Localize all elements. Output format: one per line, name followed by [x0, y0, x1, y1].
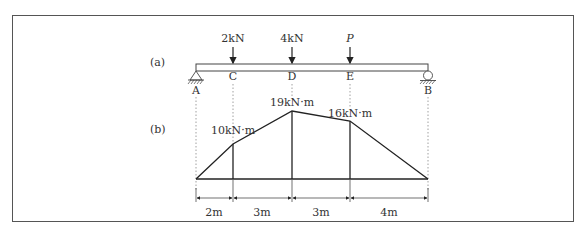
beam-diagram: (a) (b) 2kN 4kN P A C D — [0, 0, 588, 233]
svg-text:P: P — [345, 32, 354, 45]
svg-text:2kN: 2kN — [221, 32, 245, 45]
pin-support-icon — [188, 71, 204, 84]
dim-label-de: 3m — [312, 206, 330, 219]
point-a-label: A — [191, 84, 201, 97]
moment-label-c: 10kN·m — [211, 124, 256, 137]
point-c-label: C — [229, 70, 237, 83]
dim-label-ac: 2m — [205, 206, 223, 219]
part-b-label: (b) — [150, 123, 166, 136]
dim-label-eb: 4m — [380, 206, 398, 219]
part-a-label: (a) — [150, 56, 165, 69]
load-p: P — [345, 32, 354, 63]
moment-label-e: 16kN·m — [328, 107, 373, 120]
svg-text:4kN: 4kN — [280, 32, 304, 45]
point-b-label: B — [424, 84, 432, 97]
moment-diagram — [196, 111, 428, 179]
roller-support-icon — [420, 71, 436, 84]
point-e-label: E — [346, 70, 354, 83]
moment-label-d: 19kN·m — [270, 96, 315, 109]
point-d-label: D — [288, 70, 297, 83]
dim-label-cd: 3m — [253, 206, 271, 219]
load-4kn: 4kN — [280, 32, 304, 63]
load-2kn: 2kN — [221, 32, 245, 63]
dimension-lines — [196, 180, 428, 202]
